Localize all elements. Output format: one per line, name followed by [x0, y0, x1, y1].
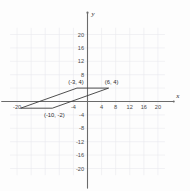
- y-axis-name: y: [91, 10, 96, 18]
- y-tick-label: 12: [78, 58, 84, 64]
- x-axis-arrow: [173, 101, 175, 103]
- coordinate-plane: -20-4481216202016128-4-8-12-16-20 (-3, 4…: [0, 0, 190, 191]
- x-axis-name: x: [175, 92, 180, 100]
- y-axis-arrow: [86, 12, 88, 14]
- y-tick-label: 20: [78, 32, 84, 38]
- axes: [1, 12, 174, 189]
- graph-canvas: -20-4481216202016128-4-8-12-16-20 (-3, 4…: [0, 0, 190, 191]
- axis-names: yx: [91, 10, 181, 100]
- y-tick-label: -12: [76, 139, 84, 145]
- x-tick-label: 20: [155, 104, 161, 110]
- vertex-label: (6, 4): [105, 79, 119, 85]
- x-tick-label: 16: [141, 104, 147, 110]
- y-tick-label: -4: [79, 112, 84, 118]
- vertex-label: (-10, -2): [44, 112, 65, 118]
- y-tick-label: 16: [78, 45, 84, 51]
- x-tick-label: -20: [13, 104, 21, 110]
- y-tick-label: -16: [76, 152, 84, 158]
- x-tick-label: 12: [127, 104, 133, 110]
- y-tick-label: -8: [79, 125, 84, 131]
- plotted-shapes: [21, 88, 109, 108]
- x-tick-label: 4: [100, 104, 103, 110]
- y-tick-label: -20: [76, 166, 84, 172]
- vertex-label: (-3, 4): [68, 79, 84, 85]
- x-tick-label: -4: [71, 104, 76, 110]
- x-tick-label: 8: [114, 104, 117, 110]
- parallelogram-shape: [21, 88, 109, 108]
- y-tick-label: 8: [81, 72, 84, 78]
